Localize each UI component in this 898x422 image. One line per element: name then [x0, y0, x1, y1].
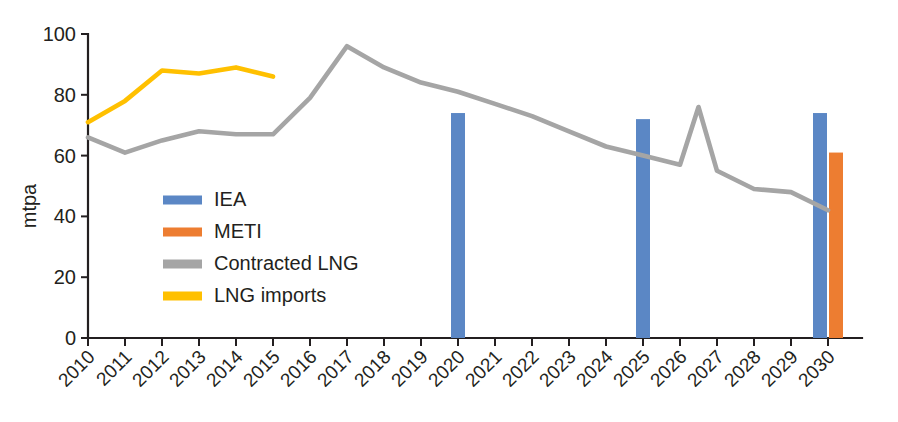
x-tick-label: 2018 [350, 346, 395, 391]
x-tick-label: 2027 [683, 346, 728, 391]
x-tick-label: 2025 [609, 346, 654, 391]
line-lng-imports [88, 67, 273, 122]
x-axis: 2010201120122013201420152016201720182019… [54, 338, 862, 391]
x-tick-label: 2022 [498, 346, 543, 391]
x-tick-label: 2015 [239, 346, 284, 391]
y-tick-label: 60 [54, 145, 76, 167]
y-axis-title: mtpa [18, 183, 40, 228]
y-tick-label: 80 [54, 84, 76, 106]
x-tick-label: 2021 [461, 346, 506, 391]
x-tick-label: 2010 [54, 346, 99, 391]
chart-figure: 020406080100 201020112012201320142015201… [0, 0, 898, 422]
y-tick-label: 40 [54, 205, 76, 227]
x-tick-label: 2024 [572, 346, 617, 391]
x-tick-label: 2028 [720, 346, 765, 391]
legend-label-iea: IEA [214, 188, 247, 210]
bar-iea-2030 [813, 113, 827, 338]
bar-series-group [451, 113, 843, 338]
chart-container: 020406080100 201020112012201320142015201… [0, 0, 898, 422]
x-tick-label: 2026 [646, 346, 691, 391]
y-axis: 020406080100 [43, 23, 88, 349]
x-tick-label: 2016 [276, 346, 321, 391]
x-tick-label: 2017 [313, 346, 358, 391]
bar-meti-2030 [829, 153, 843, 338]
x-tick-label: 2020 [424, 346, 469, 391]
chart-legend: IEAMETIContracted LNGLNG imports [163, 188, 359, 306]
y-tick-label: 100 [43, 23, 76, 45]
x-tick-label: 2029 [757, 346, 802, 391]
bar-iea-2020 [451, 113, 465, 338]
y-tick-label: 0 [65, 327, 76, 349]
legend-label-contracted-lng: Contracted LNG [214, 252, 359, 274]
x-tick-label: 2019 [387, 346, 432, 391]
x-tick-label: 2011 [92, 346, 136, 390]
bar-iea-2025 [636, 119, 650, 338]
legend-label-meti: METI [214, 220, 262, 242]
legend-label-lng-imports: LNG imports [214, 284, 326, 306]
y-tick-label: 20 [54, 266, 76, 288]
x-tick-label: 2030 [794, 346, 839, 391]
x-tick-label: 2012 [128, 346, 173, 391]
x-tick-label: 2023 [535, 346, 580, 391]
x-tick-label: 2013 [165, 346, 210, 391]
x-tick-label: 2014 [202, 346, 247, 391]
